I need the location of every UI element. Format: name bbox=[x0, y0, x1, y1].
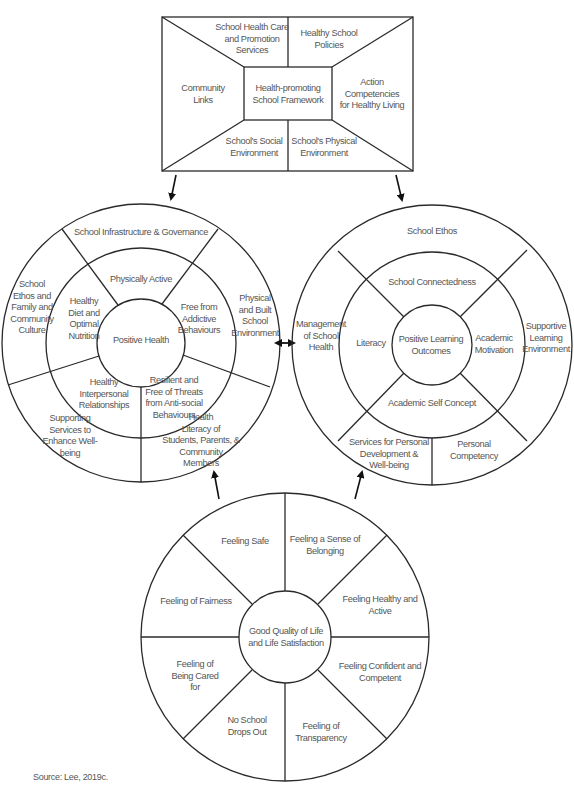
label-school-infrastructure: School Infrastructure & Governance bbox=[74, 227, 208, 239]
arrow-bottom-to-right-wheel bbox=[355, 472, 362, 499]
label-action-competencies: Action Competencies for Healthy Living bbox=[340, 77, 405, 112]
label-physical-environment: School's Physical Environment bbox=[291, 136, 356, 159]
label-transparency: Feeling of Transparency bbox=[295, 721, 347, 744]
label-school-ethos-family: School Ethos and Family and Community Cu… bbox=[10, 279, 53, 337]
label-feeling-safe: Feeling Safe bbox=[221, 536, 268, 548]
arrow-to-left-wheel bbox=[171, 175, 176, 199]
label-academic-motivation: Academic Motivation bbox=[475, 333, 513, 356]
label-interpersonal: Healthy Interpersonal Relationships bbox=[79, 377, 130, 412]
label-confident-competent: Feeling Confident and Competent bbox=[339, 661, 422, 684]
label-framework-center: Health-promoting School Framework bbox=[253, 83, 324, 106]
label-fairness: Feeling of Fairness bbox=[160, 596, 231, 608]
label-literacy: Literacy bbox=[356, 338, 385, 350]
label-supporting-services: Supporting Services to Enhance Well- bei… bbox=[42, 413, 97, 459]
label-health-literacy: Health Literacy of Students, Parents, & … bbox=[162, 412, 239, 470]
arrow-bottom-to-left-wheel bbox=[214, 472, 219, 499]
label-being-cared-for: Feeling of Being Cared for bbox=[171, 659, 218, 694]
label-services-personal-development: Services for Personal Development & Well… bbox=[349, 437, 429, 472]
label-school-health-care: School Health Care and Promotion Service… bbox=[215, 22, 288, 57]
label-sense-of-belonging: Feeling a Sense of Belonging bbox=[290, 534, 360, 557]
label-healthy-active: Feeling Healthy and Active bbox=[342, 594, 417, 617]
source-caption: Source: Lee, 2019c. bbox=[33, 772, 108, 782]
label-community-links: Community Links bbox=[181, 83, 224, 106]
label-positive-learning: Positive Learning Outcomes bbox=[399, 334, 464, 357]
label-no-school-dropout: No School Drops Out bbox=[227, 715, 266, 738]
label-school-ethos: School Ethos bbox=[407, 226, 457, 238]
label-quality-of-life: Good Quality of Life and Life Satisfacti… bbox=[248, 626, 323, 649]
arrow-to-right-wheel bbox=[396, 175, 402, 200]
label-social-environment: School's Social Environment bbox=[226, 136, 283, 159]
label-management-school-health: Management of School Health bbox=[296, 319, 346, 354]
label-supportive-learning: Supportive Learning Environment bbox=[522, 321, 570, 356]
label-physically-active: Physically Active bbox=[110, 274, 172, 286]
label-academic-self-concept: Academic Self Concept bbox=[388, 398, 476, 410]
label-positive-health: Positive Health bbox=[113, 335, 169, 347]
label-healthy-diet: Healthy Diet and Optimal Nutrition bbox=[68, 296, 99, 342]
label-healthy-school-policies: Healthy School Policies bbox=[301, 28, 358, 51]
label-free-from-addictive: Free from Addictive Behaviours bbox=[178, 302, 220, 337]
label-physical-built: Physical and Built School Environment bbox=[231, 293, 279, 339]
label-school-connectedness: School Connectedness bbox=[388, 277, 476, 289]
label-personal-competency: Personal Competency bbox=[450, 439, 498, 462]
